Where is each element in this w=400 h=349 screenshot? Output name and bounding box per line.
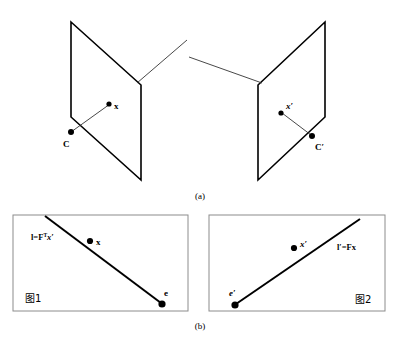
right-image-point-label: x′ (285, 101, 294, 111)
figure-root: x C x′ C′ (a) l=FTx′ (0, 0, 400, 349)
right-epipolar-line-label: l′=Fx (337, 242, 357, 252)
right-baseline-ray (189, 57, 262, 83)
left-line-label-main: l=F (31, 232, 43, 242)
panel-b-group: l=FTx′ x e 图1 l′=Fx x′ e′ 图2 (13, 215, 385, 331)
epipolar-geometry-diagram: x C x′ C′ (a) l=FTx′ (0, 0, 400, 349)
panel-a-group: x C x′ C′ (a) (63, 22, 325, 201)
right-image-point-marker (278, 110, 283, 115)
left-line-label-tail: x′ (46, 232, 54, 242)
left-box-caption: 图1 (25, 293, 41, 304)
left-box-epipole-label: e (164, 288, 168, 298)
right-epipolar-line (236, 219, 360, 304)
left-image-point-marker (106, 101, 111, 106)
right-box-point-marker (291, 245, 297, 251)
panel-b-caption: (b) (195, 321, 206, 331)
left-baseline-ray (137, 40, 187, 83)
left-epipolar-line (45, 216, 161, 303)
left-image-plane (71, 22, 141, 180)
right-box-caption: 图2 (355, 294, 371, 305)
right-box-epipole-marker (231, 301, 238, 308)
left-camera-centre-marker (68, 129, 74, 135)
panel-a-caption: (a) (195, 191, 205, 201)
right-box-epipole-label: e′ (229, 288, 236, 298)
right-camera-centre-label: C′ (315, 142, 324, 152)
left-epipolar-line-label: l=FTx′ (31, 232, 54, 242)
left-box-point-marker (87, 238, 93, 244)
left-camera-centre-label: C (63, 139, 70, 149)
right-camera-centre-marker (309, 133, 315, 139)
right-box-point-label: x′ (299, 239, 308, 249)
left-projection-ray (71, 104, 110, 132)
right-projection-ray (282, 113, 311, 135)
left-box-epipole-marker (158, 300, 165, 307)
left-image-point-label: x (114, 101, 119, 111)
left-box-point-label: x (96, 237, 101, 247)
